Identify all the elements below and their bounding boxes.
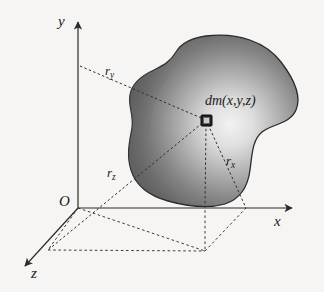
- diagram-canvas: [0, 0, 324, 292]
- origin-label: O: [59, 194, 70, 209]
- xz-projection-lines: [48, 205, 246, 251]
- r-y-subscript: y: [110, 70, 114, 80]
- z-axis-line: [25, 208, 78, 266]
- projection-diagonal: [78, 208, 205, 251]
- y-axis-label: y: [58, 14, 65, 29]
- physics-diagram-figure: y x z O ry rz rx dm(x,y,z): [0, 0, 324, 292]
- mass-element-marker: [201, 115, 212, 126]
- r-x-label: rx: [226, 154, 235, 170]
- rigid-body: [129, 35, 298, 206]
- mass-element-inner-square: [204, 118, 210, 124]
- z-axis-label: z: [31, 266, 37, 281]
- r-x-subscript: x: [231, 160, 235, 170]
- r-z-subscript: z: [112, 172, 116, 182]
- projection-edge-right: [205, 208, 246, 251]
- r-y-label: ry: [105, 64, 114, 80]
- mass-element-label: dm(x,y,z): [205, 94, 256, 108]
- x-axis-label: x: [274, 214, 281, 229]
- projection-edge-front: [48, 250, 205, 251]
- r-z-label: rz: [107, 166, 116, 182]
- projection-edge-origin-z: [48, 208, 78, 250]
